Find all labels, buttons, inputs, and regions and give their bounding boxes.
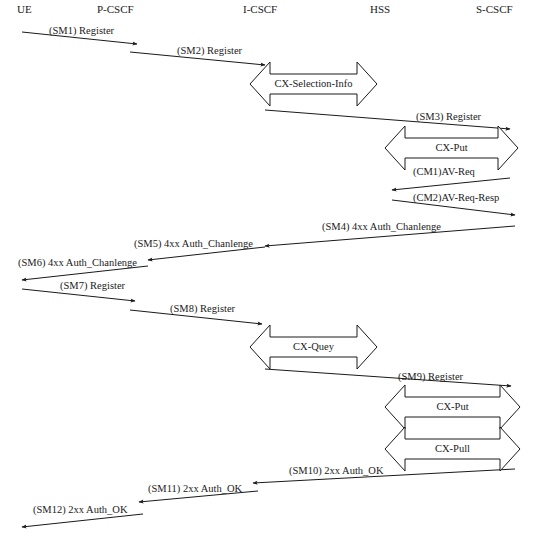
message-label-sm4: (SM4) 4xx Auth_Chanlenge — [322, 222, 441, 233]
message-label-sm3: (SM3) Register — [416, 112, 481, 123]
message-label-sm12: (SM12) 2xx Auth_OK — [33, 505, 128, 516]
message-label-sm6: (SM6) 4xx Auth_Chanlenge — [18, 258, 137, 269]
double-arrow-label-cx-quey: CX-Quey — [270, 342, 357, 353]
message-label-sm2: (SM2) Register — [177, 46, 242, 57]
message-label-sm8: (SM8) Register — [170, 304, 235, 315]
entity-scscf: S-CSCF — [476, 4, 513, 15]
entity-ue: UE — [17, 4, 32, 15]
message-arrow-sm12 — [22, 514, 143, 527]
double-arrow-label-cx-selection-info: CX-Selection-Info — [270, 79, 357, 90]
message-label-cm1: (CM1)AV-Req — [413, 167, 475, 178]
entity-icscf: I-CSCF — [243, 4, 277, 15]
sequence-diagram — [0, 0, 537, 544]
message-arrow-sm9 — [265, 369, 511, 386]
message-label-sm5: (SM5) 4xx Auth_Chanlenge — [134, 239, 253, 250]
double-arrow-label-cx-pull: CX-Pull — [405, 444, 500, 455]
double-arrow-label-cx-put-1: CX-Put — [405, 143, 498, 154]
message-label-cm2: (CM2)AV-Req-Resp — [413, 193, 499, 204]
message-arrow-cm1 — [392, 178, 510, 190]
message-label-sm11: (SM11) 2xx Auth_OK — [148, 484, 242, 495]
message-label-sm9: (SM9) Register — [398, 372, 463, 383]
message-label-sm10: (SM10) 2xx Auth_OK — [289, 466, 384, 477]
entity-hss: HSS — [370, 4, 390, 15]
entity-pcscf: P-CSCF — [97, 4, 134, 15]
double-arrow-label-cx-put-2: CX-Put — [405, 402, 500, 413]
message-label-sm7: (SM7) Register — [60, 281, 125, 292]
message-label-sm1: (SM1) Register — [49, 26, 114, 37]
